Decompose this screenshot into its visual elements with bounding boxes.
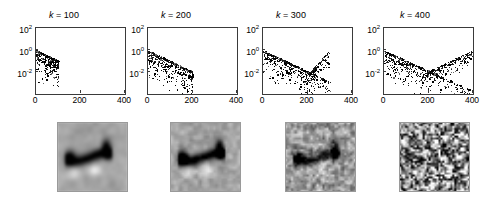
scatter-point [416, 80, 417, 81]
scatter-point [153, 55, 154, 56]
scatter-point [275, 65, 276, 66]
y-tick-label: 102 [0, 23, 32, 35]
scatter-point [388, 62, 389, 63]
scatter-point [385, 55, 386, 56]
scatter-point [281, 69, 282, 70]
scatter-point [320, 80, 321, 81]
scatter-point [422, 77, 423, 78]
scatter-point [153, 52, 154, 53]
scatter-point [397, 70, 398, 71]
scatter-point [395, 83, 396, 84]
scatter-point [51, 73, 52, 74]
scatter-point [161, 63, 162, 64]
scatter-point [417, 72, 418, 73]
scatter-point [57, 82, 58, 83]
scatter-point [441, 76, 442, 77]
scatter-point [268, 66, 269, 67]
scatter-point [311, 72, 312, 73]
scatter-point [454, 83, 455, 84]
scatter-point [272, 77, 273, 78]
scatter-point [291, 72, 292, 73]
scatter-point [174, 73, 175, 74]
scatter-point [320, 62, 321, 63]
scatter-point [187, 92, 188, 93]
scatter-point [389, 54, 390, 55]
scatter-point [416, 69, 417, 70]
scatter-point [320, 69, 321, 70]
scatter-point [318, 71, 319, 72]
scatter-point [328, 90, 329, 91]
scatter-point [266, 58, 267, 59]
scatter-point [58, 86, 59, 87]
scatter-point [386, 54, 387, 55]
reconstruction-canvas-4 [399, 122, 470, 192]
scatter-point [53, 65, 54, 66]
scatter-point [301, 93, 302, 94]
scatter-point [178, 67, 179, 68]
scatter-point [306, 75, 307, 76]
scatter-point [184, 83, 185, 84]
scatter-point [272, 70, 273, 71]
scatter-point [192, 86, 193, 87]
scatter-point [315, 67, 316, 68]
panel-title-1: k = 100 [0, 10, 128, 21]
scatter-point [51, 57, 52, 58]
scatter-point [277, 74, 278, 75]
scatter-point [167, 81, 168, 82]
scatter-point [326, 62, 327, 63]
scatter-point [154, 75, 155, 76]
reconstruction-image-4 [399, 122, 470, 192]
scatter-point [179, 74, 180, 75]
scatter-point [462, 68, 463, 69]
x-tick-label: 200 [67, 96, 93, 105]
scatter-point [321, 79, 322, 80]
scatter-point [405, 78, 406, 79]
scatter-point [39, 59, 40, 60]
scatter-point [402, 70, 403, 71]
scatter-point [323, 85, 324, 86]
y-tick-mark [147, 49, 150, 50]
scatter-point [451, 72, 452, 73]
scatter-point [413, 71, 414, 72]
scatter-point [52, 72, 53, 73]
scatter-point [292, 68, 293, 69]
y-tick-label: 102 [227, 23, 259, 35]
scatter-point [288, 76, 289, 77]
scatter-point [312, 74, 313, 75]
scatter-point [185, 87, 186, 88]
scatter-point [410, 64, 411, 65]
scatter-point [416, 83, 417, 84]
scatter-point [192, 84, 193, 85]
scatter-point [386, 57, 387, 58]
scatter-point [282, 78, 283, 79]
scatter-point [394, 69, 395, 70]
scatter-point [159, 59, 160, 60]
reconstruction-image-2 [170, 122, 241, 192]
scatter-point [300, 89, 301, 90]
scatter-point [295, 81, 296, 82]
scatter-point [322, 83, 323, 84]
scatter-point [458, 60, 459, 61]
scatter-point [56, 69, 57, 70]
scatter-point [441, 73, 442, 74]
y-tick-mark [383, 71, 386, 72]
panel-title-3: k = 300 [227, 10, 355, 21]
scatter-point [448, 86, 449, 87]
scatter-point [426, 86, 427, 87]
scatter-point [285, 62, 286, 63]
scatter-point [281, 67, 282, 68]
scatter-point [448, 87, 449, 88]
y-tick-mark [262, 49, 265, 50]
reconstruction-image-1 [57, 122, 128, 192]
scatter-point [457, 88, 458, 89]
scatter-point [311, 80, 312, 81]
scatter-panel-1: k = 100 10210010-20200400 [0, 0, 128, 110]
scatter-point [445, 75, 446, 76]
x-tick-mark [472, 90, 473, 93]
scatter-point [468, 62, 469, 63]
scatter-point [432, 81, 433, 82]
scatter-point [446, 87, 447, 88]
scatter-point [274, 59, 275, 60]
scatter-point [43, 83, 44, 84]
scatter-point [455, 67, 456, 68]
